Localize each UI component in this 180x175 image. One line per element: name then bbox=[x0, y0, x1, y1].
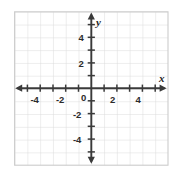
x-tick-label-neg2: -2 bbox=[56, 95, 64, 105]
y-tick-label-neg2: -2 bbox=[73, 110, 81, 120]
x-tick-label-4: 4 bbox=[136, 95, 141, 105]
x-tick-label-2: 2 bbox=[110, 95, 115, 105]
coordinate-plane-canvas bbox=[0, 0, 180, 175]
coordinate-plane-figure: -4 -2 2 4 4 2 -2 -4 0 y x bbox=[0, 0, 180, 175]
x-tick-label-neg4: -4 bbox=[31, 95, 39, 105]
y-tick-label-neg4: -4 bbox=[73, 135, 81, 145]
x-axis-label: x bbox=[159, 73, 165, 84]
y-axis-label: y bbox=[96, 17, 101, 28]
y-tick-label-2: 2 bbox=[79, 59, 84, 69]
origin-label: 0 bbox=[81, 93, 86, 103]
y-tick-label-4: 4 bbox=[79, 33, 84, 43]
